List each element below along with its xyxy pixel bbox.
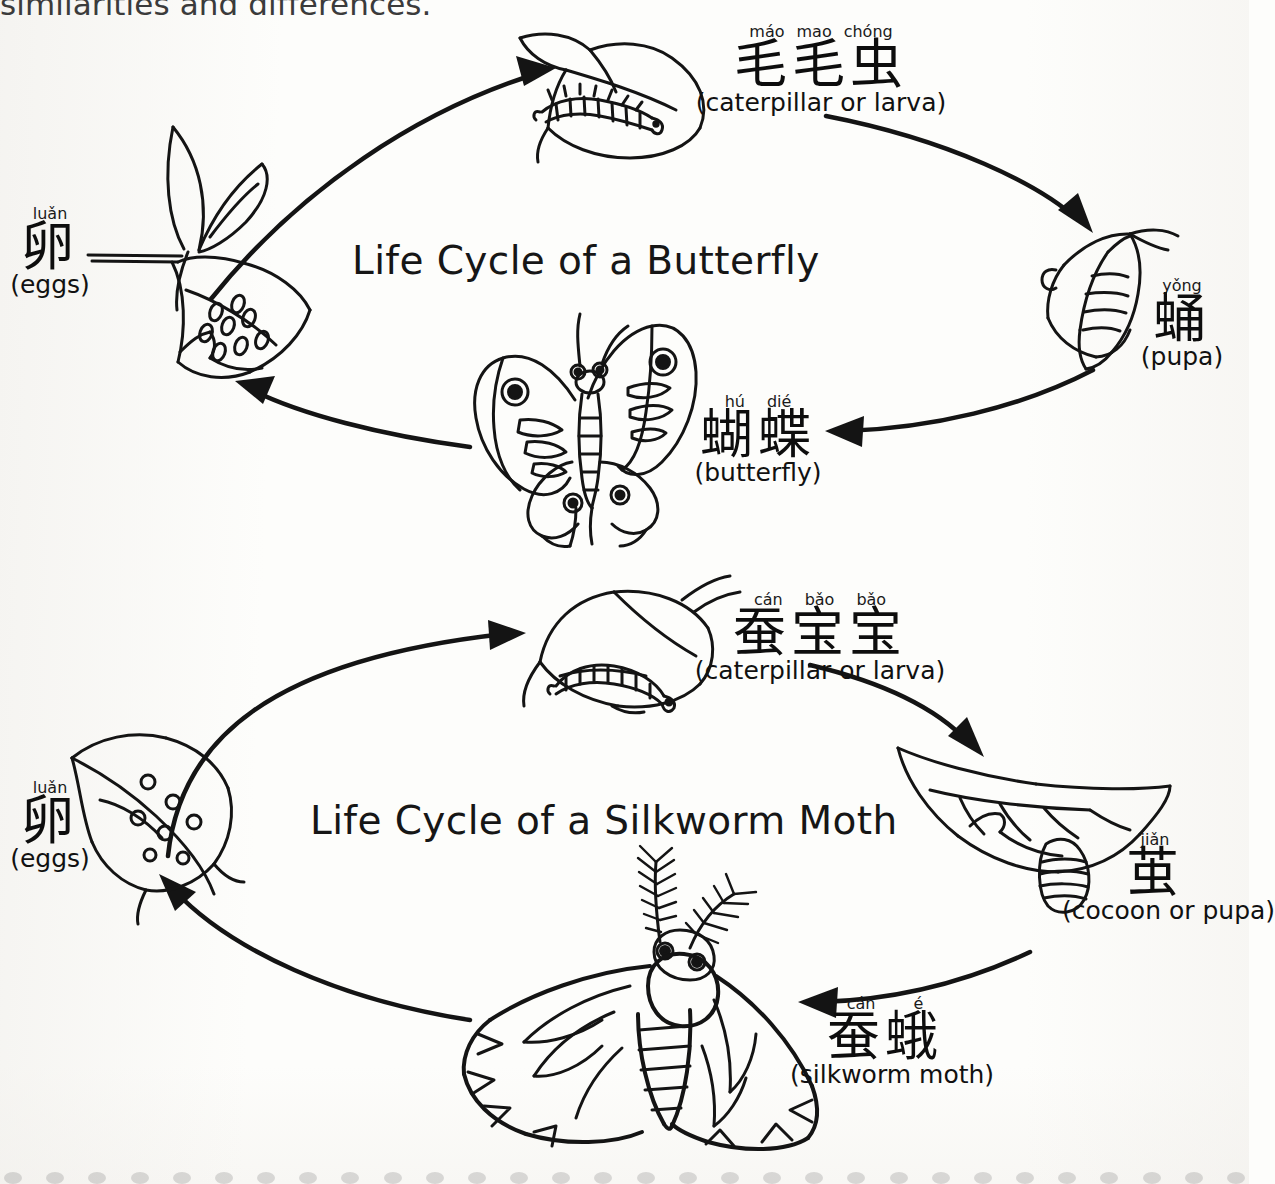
label-silkworm-eggs: luǎn 卵 (eggs) <box>4 780 96 871</box>
arrow-pupa-to-butterfly <box>846 370 1093 431</box>
label-silkworm-moth: cán é 蚕蛾 (silkworm moth) <box>790 996 980 1087</box>
label-butterfly-adult: hú dié 蝴蝶 (butterfly) <box>672 394 844 485</box>
hanzi: 蛹 <box>1126 292 1238 345</box>
illustration-butterfly <box>475 314 697 547</box>
hanzi: 卵 <box>4 220 96 273</box>
hanzi: 卵 <box>4 794 96 847</box>
hanzi: 蝴蝶 <box>672 408 844 461</box>
english-gloss: (caterpillar or larva) <box>676 90 966 115</box>
arrow-caterpillar-to-pupa <box>826 116 1077 219</box>
english-gloss: (pupa) <box>1126 344 1238 369</box>
label-butterfly-caterpillar: máo mao chóng 毛毛虫 (caterpillar or larva) <box>676 24 966 115</box>
english-gloss: (silkworm moth) <box>790 1062 980 1087</box>
arrow-butterfly-to-eggs <box>252 390 470 447</box>
silkworm-cycle-title: Life Cycle of a Silkworm Moth <box>310 798 898 843</box>
illustration-leaf-with-eggs-silkworm <box>72 735 244 924</box>
arrow-moth-to-eggs <box>174 890 470 1020</box>
english-gloss: (eggs) <box>4 272 96 297</box>
english-gloss: (cocoon or pupa) <box>1062 898 1248 923</box>
illustration-leaf-with-eggs-butterfly <box>88 127 310 377</box>
label-butterfly-eggs: luǎn 卵 (eggs) <box>4 206 96 297</box>
butterfly-cycle-title: Life Cycle of a Butterfly <box>352 238 820 283</box>
label-butterfly-pupa: yǒng 蛹 (pupa) <box>1126 278 1238 369</box>
english-gloss: (caterpillar or larva) <box>680 658 960 683</box>
hanzi: 蚕蛾 <box>790 1010 980 1063</box>
label-silkworm-larva: cán bǎo bǎo 蚕宝宝 (caterpillar or larva) <box>680 592 960 683</box>
label-silkworm-cocoon: jiǎn 茧 (cocoon or pupa) <box>1062 832 1248 923</box>
english-gloss: (butterfly) <box>672 460 844 485</box>
page-bottom-dot-row <box>0 1172 1249 1184</box>
hanzi: 毛毛虫 <box>676 38 966 91</box>
english-gloss: (eggs) <box>4 846 96 871</box>
hanzi: 茧 <box>1062 846 1248 899</box>
illustration-silkworm-moth <box>464 846 817 1149</box>
hanzi: 蚕宝宝 <box>680 606 960 659</box>
